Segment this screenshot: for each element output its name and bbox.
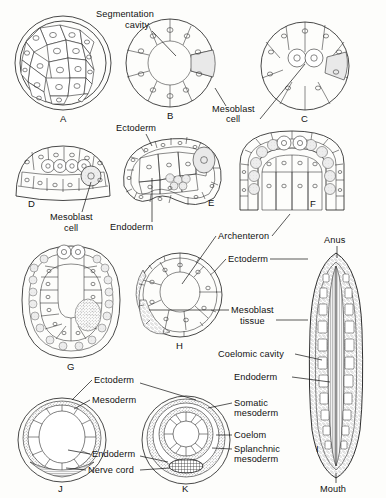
ectoderm-e-text: Ectoderm — [116, 123, 156, 133]
panel-G-mesoblast-mass — [75, 299, 101, 331]
figure-canvas: A B — [0, 0, 386, 498]
panel-G-letter: G — [67, 361, 74, 372]
mesoblast-cell-2-line2: cell — [64, 223, 78, 233]
mouth-text: Mouth — [320, 484, 346, 494]
segmentation-cavity-line1: Segmentation — [96, 9, 154, 19]
anus-text: Anus — [324, 235, 346, 245]
mesoblast-cell-2-line1: Mesoblast — [50, 212, 93, 222]
endoderm-e-text: Endoderm — [110, 222, 153, 232]
archenteron-text: Archenteron — [218, 231, 269, 241]
endoderm-j-text: Endoderm — [92, 449, 135, 459]
ectoderm-j-text: Ectoderm — [94, 375, 134, 385]
splanchnic-mesoderm-line2: mesoderm — [234, 454, 278, 464]
embryology-figure: A B — [0, 0, 386, 498]
segmentation-cavity-line2: cavity — [125, 20, 149, 30]
panel-E-mesoblast-cell — [193, 147, 215, 173]
coelomic-cavity-text: Coelomic cavity — [218, 349, 284, 359]
ectoderm-h-text: Ectoderm — [228, 254, 268, 264]
panel-H-letter: H — [176, 340, 183, 351]
mesoblast-tissue-line1: Mesoblast — [231, 305, 274, 315]
nerve-cord-text: Nerve cord — [88, 465, 134, 475]
panel-I: I — [309, 253, 362, 478]
panel-D-letter: D — [28, 198, 35, 209]
panel-J-gut-cavity — [39, 411, 85, 463]
panel-F-letter: F — [310, 198, 316, 209]
panel-J-letter: J — [58, 483, 63, 494]
panel-K-letter: K — [182, 483, 189, 494]
mesoblast-tissue-line2: tissue — [240, 316, 265, 326]
coelom-text: Coelom — [234, 430, 267, 440]
panel-E-letter: E — [208, 197, 214, 208]
mesoblast-cell-line2: cell — [226, 114, 240, 124]
panel-I-letter: I — [316, 443, 319, 454]
panel-B-letter: B — [167, 110, 173, 121]
splanchnic-mesoderm-line1: Splanchnic — [234, 444, 280, 454]
mesoblast-cell-line1: Mesoblast — [212, 104, 255, 114]
somatic-mesoderm-line2: mesoderm — [234, 408, 278, 418]
endoderm-i-text: Endoderm — [234, 372, 277, 382]
panel-C-letter: C — [301, 113, 308, 124]
panel-A-cells — [21, 25, 94, 104]
panel-A-letter: A — [60, 113, 67, 124]
panel-K-nerve-cord — [169, 459, 203, 473]
mesoderm-j-text: Mesoderm — [92, 395, 136, 405]
somatic-mesoderm-line1: Somatic — [234, 398, 268, 408]
